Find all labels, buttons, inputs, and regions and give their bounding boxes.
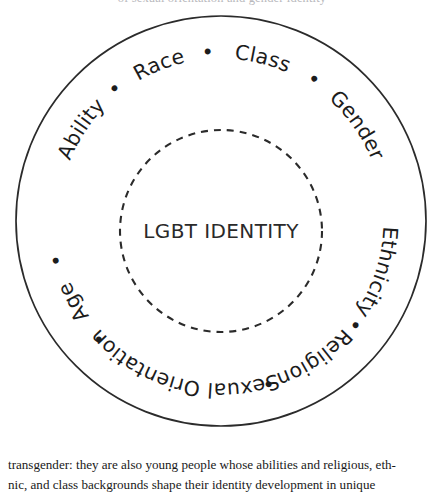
ring-separator-7: • — [43, 252, 69, 270]
ring-label-ethnicity: Ethnicity — [351, 226, 402, 323]
ring-separator-1: • — [103, 76, 128, 102]
core-label: LGBT IDENTITY — [143, 219, 299, 243]
ring-label-ability: Ability — [53, 93, 110, 163]
caption-paragraph: transgender: they are also young people … — [8, 455, 440, 494]
ring-label-gender: Gender — [325, 85, 390, 163]
lgbt-identity-diagram: LGBT IDENTITY Ability • Race • Class • G… — [0, 0, 444, 440]
caption-line-1: transgender: they are also young people … — [8, 455, 440, 475]
ring-label-class: Class — [234, 40, 295, 77]
ring-label-age: Age — [53, 279, 94, 327]
caption-line-2: nic, and class backgrounds shape their i… — [8, 475, 440, 495]
ring-label-sexual-orientation: Sexual Orientation — [85, 325, 282, 403]
ring-labels-top: Ability • Race • Class • Gender — [53, 40, 391, 226]
ring-label-religion: Religion — [273, 324, 357, 391]
ring-separator-3: • — [302, 66, 325, 93]
ring-label-race: Race — [129, 44, 187, 85]
ring-separator-2: • — [201, 40, 215, 65]
